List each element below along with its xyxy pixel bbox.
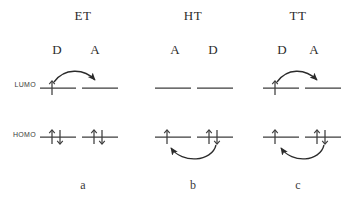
diagram-vector-layer	[0, 0, 348, 205]
panel-c-electron-transfer-arrow	[277, 71, 317, 82]
panel-b-hole-transfer-arrow	[171, 145, 216, 159]
panel-c-hole-transfer-arrow	[281, 145, 324, 159]
energy-level-figure: ET HT TT D A A D D A LUMO HOMO a b c	[0, 0, 348, 205]
panel-a-electron-transfer-arrow	[54, 71, 95, 82]
